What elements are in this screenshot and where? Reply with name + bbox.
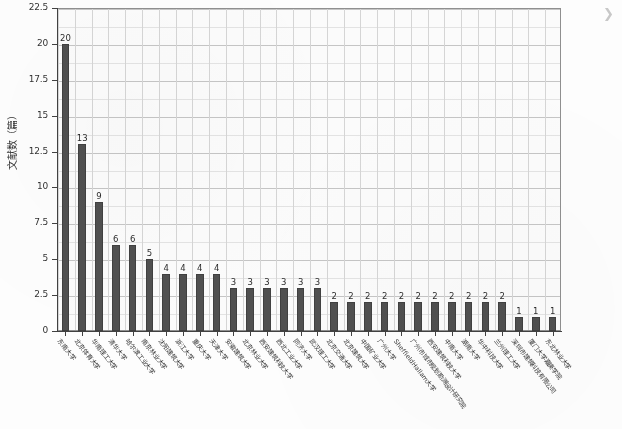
bar-value-label: 6 [121,234,145,244]
x-tick-mark [553,332,554,336]
y-tick-mark [52,152,57,153]
x-tick-mark [502,332,503,336]
bar[interactable] [364,302,372,331]
bar[interactable] [347,302,355,331]
chart-root: 02.557.51012.51517.52022.5 2013966544443… [0,0,622,429]
y-tick-label: 17.5 [4,74,48,84]
x-tick-mark [99,332,100,336]
bar[interactable] [297,288,305,331]
bar[interactable] [280,288,288,331]
x-tick-mark [485,332,486,336]
x-tick-mark [284,332,285,336]
bar-value-label: 5 [137,248,161,258]
bar[interactable] [196,274,204,331]
bar[interactable] [213,274,221,331]
x-tick-mark [116,332,117,336]
bar[interactable] [246,288,254,331]
x-tick-mark [233,332,234,336]
bar-value-label: 13 [70,133,94,143]
y-tick-mark [52,116,57,117]
bar-value-label: 9 [87,191,111,201]
bar-value-label: 4 [205,263,229,273]
y-tick-mark [52,80,57,81]
x-tick-mark [368,332,369,336]
x-tick-mark [267,332,268,336]
y-tick-mark [52,44,57,45]
y-tick-mark [52,259,57,260]
y-tick-label: 22.5 [4,2,48,12]
bar[interactable] [314,288,322,331]
x-tick-mark [301,332,302,336]
x-tick-mark [536,332,537,336]
gridline-vertical [176,9,177,330]
y-tick-label: 2.5 [4,289,48,299]
gridline-vertical [58,9,59,330]
bar-value-label: 2 [490,291,514,301]
x-tick-mark [401,332,402,336]
gridline-horizontal-minor [58,27,560,28]
bar[interactable] [465,302,473,331]
bar[interactable] [230,288,238,331]
gridline-vertical [108,9,109,330]
gridline-vertical [377,9,378,330]
gridline-horizontal [58,9,560,10]
gridline-horizontal-minor [58,99,560,100]
y-tick-label: 7.5 [4,217,48,227]
bar-value-label: 20 [53,33,77,43]
gridline-vertical [209,9,210,330]
x-tick-mark [385,332,386,336]
bar[interactable] [330,302,338,331]
x-tick-mark [82,332,83,336]
bar[interactable] [431,302,439,331]
x-tick-mark [334,332,335,336]
y-tick-label: 20 [4,38,48,48]
x-tick-mark [452,332,453,336]
gridline-vertical [528,9,529,330]
bar[interactable] [146,259,154,331]
bar[interactable] [112,245,120,331]
y-tick-mark [52,295,57,296]
bar[interactable] [162,274,170,331]
bar[interactable] [62,44,70,331]
x-tick-mark [183,332,184,336]
gridline-vertical [75,9,76,330]
bar[interactable] [448,302,456,331]
gridline-vertical [360,9,361,330]
x-tick-mark [217,332,218,336]
gridline-vertical [159,9,160,330]
x-tick-mark [519,332,520,336]
x-tick-mark [166,332,167,336]
bar[interactable] [95,202,103,331]
bar[interactable] [381,302,389,331]
bar[interactable] [482,302,490,331]
gridline-vertical [444,9,445,330]
bar[interactable] [532,317,540,331]
bar[interactable] [263,288,271,331]
bar[interactable] [414,302,422,331]
corner-glyph-icon: ❯ [603,6,614,21]
gridline-horizontal-minor [58,171,560,172]
gridline-vertical [192,9,193,330]
bar[interactable] [498,302,506,331]
gridline-horizontal [58,117,560,118]
bar[interactable] [78,144,86,331]
gridline-vertical [512,9,513,330]
y-tick-mark [52,331,57,332]
bar[interactable] [129,245,137,331]
gridline-vertical [428,9,429,330]
bar[interactable] [398,302,406,331]
gridline-horizontal-minor [58,206,560,207]
y-tick-mark [52,223,57,224]
bar[interactable] [549,317,557,331]
gridline-horizontal [58,45,560,46]
bar[interactable] [179,274,187,331]
gridline-horizontal [58,224,560,225]
gridline-vertical [125,9,126,330]
y-tick-mark [52,187,57,188]
gridline-vertical [495,9,496,330]
bar[interactable] [515,317,523,331]
bar-value-label: 3 [305,277,329,287]
gridline-horizontal [58,81,560,82]
gridline-vertical [92,9,93,330]
gridline-vertical [461,9,462,330]
